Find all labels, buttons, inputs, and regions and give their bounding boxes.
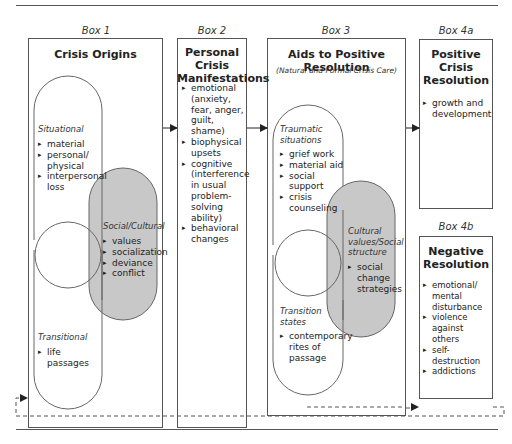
box4a-list: growth and development <box>423 98 491 120</box>
box4b-title: Negative Resolution <box>419 245 493 271</box>
traumatic-heading-line2: situations <box>280 135 322 146</box>
list-item: social change strategies <box>348 262 392 294</box>
list-item: behavioral changes <box>182 223 246 245</box>
box1-crisis-origins <box>28 38 163 428</box>
box4a-title: Positive Crisis Resolution <box>419 48 493 87</box>
top-rule <box>16 5 498 6</box>
box4b-label: Box 4b <box>418 221 494 232</box>
box3-label: Box 3 <box>266 25 406 36</box>
cultural-values-list: social change strategies <box>348 262 392 294</box>
box4b-title-line2: Resolution <box>419 258 493 271</box>
list-item: crisis counseling <box>280 192 324 214</box>
list-item: biophysical upsets <box>182 137 246 159</box>
list-item: contemporary rites of passage <box>280 331 344 363</box>
cultural-heading-line3: structure <box>348 247 404 258</box>
social-cultural-list: values socialization deviance conflict <box>103 236 159 279</box>
list-item: values <box>103 236 159 247</box>
list-item: growth and development <box>423 98 491 120</box>
list-item: socialization <box>103 247 159 258</box>
list-item: grief work <box>280 149 350 160</box>
transition-heading-line1: Transition <box>280 306 322 317</box>
box4b-title-line1: Negative <box>419 245 493 258</box>
list-item: cognitive (interference in usual problem… <box>182 159 246 224</box>
cultural-heading-line1: Cultural <box>348 226 404 237</box>
list-item: addictions <box>423 366 493 377</box>
list-item: material aid <box>280 160 350 171</box>
situational-heading: Situational <box>38 124 84 135</box>
list-item: deviance <box>103 258 159 269</box>
social-cultural-heading: Social/Cultural <box>103 221 165 232</box>
box1-label: Box 1 <box>28 25 164 36</box>
list-item: emotional (anxiety, fear, anger, guilt, … <box>182 83 246 137</box>
cultural-heading-line2: values/Social <box>348 237 404 248</box>
traumatic-list: grief work material aid social support c… <box>280 149 350 214</box>
list-item: self-destruction <box>423 345 493 367</box>
box2-label: Box 2 <box>176 25 248 36</box>
box4b-list: emotional/ mental disturbance violence a… <box>423 280 493 377</box>
box3-subtitle: (Natural and Formal Crisis Care) <box>267 66 406 75</box>
box4a-title-line1: Positive <box>419 48 493 61</box>
bottom-rule <box>16 429 498 430</box>
box4a-label: Box 4a <box>418 25 494 36</box>
box4a-title-line2: Crisis <box>419 61 493 74</box>
list-item: social support <box>280 171 350 193</box>
box2-title-line1: Personal Crisis <box>177 46 247 72</box>
traumatic-heading-line1: Traumatic <box>280 124 322 135</box>
list-item: violence against others <box>423 312 493 344</box>
transitional-heading: Transitional <box>38 332 87 343</box>
box2-list: emotional (anxiety, fear, anger, guilt, … <box>182 83 246 245</box>
box4a-title-line3: Resolution <box>419 74 493 87</box>
traumatic-heading: Traumatic situations <box>280 124 322 145</box>
cultural-values-heading: Cultural values/Social structure <box>348 226 404 258</box>
box1-title: Crisis Origins <box>28 48 163 61</box>
list-item: personal/ physical <box>38 150 102 172</box>
list-item: life passages <box>38 347 102 369</box>
transition-heading-line2: states <box>280 317 322 328</box>
box2-title: Personal Crisis Manifestations <box>177 46 247 85</box>
list-item: interpersonal loss <box>38 171 102 193</box>
transition-states-list: contemporary rites of passage <box>280 331 344 363</box>
situational-list: material personal/ physical interpersona… <box>38 139 102 193</box>
transitional-list: life passages <box>38 347 102 369</box>
list-item: emotional/ mental disturbance <box>423 280 493 312</box>
list-item: conflict <box>103 268 159 279</box>
list-item: material <box>38 139 102 150</box>
transition-states-heading: Transition states <box>280 306 322 327</box>
